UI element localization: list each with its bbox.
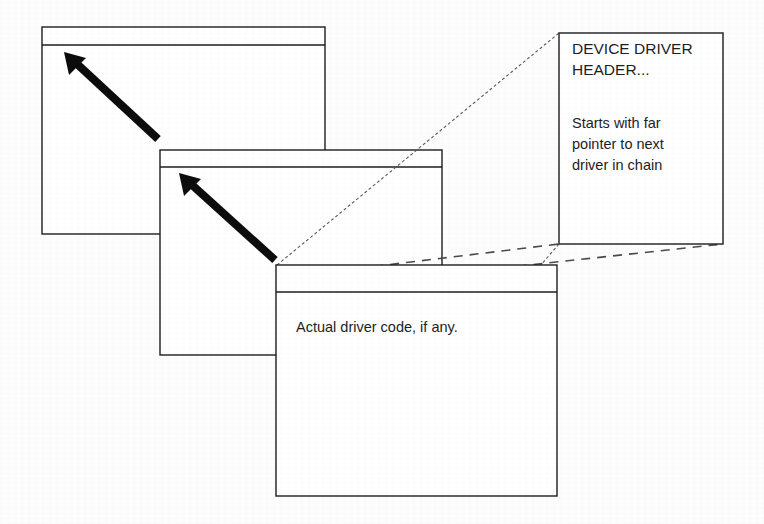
diagram-canvas: DEVICE DRIVER HEADER... Starts with far … bbox=[0, 0, 764, 524]
front-driver-block[interactable] bbox=[276, 265, 557, 496]
front-driver-block-outline bbox=[276, 265, 557, 496]
callout-title: DEVICE DRIVER HEADER... bbox=[572, 38, 693, 80]
front-driver-block-label: Actual driver code, if any. bbox=[296, 319, 458, 335]
callout-body-text: Starts with far pointer to next driver i… bbox=[572, 113, 664, 176]
